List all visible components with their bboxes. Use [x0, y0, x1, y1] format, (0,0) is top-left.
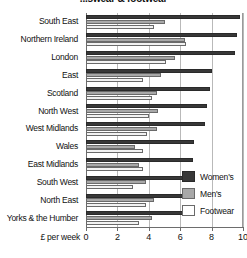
bar-women — [86, 15, 240, 19]
x-axis-line — [86, 227, 243, 228]
bar-men — [86, 56, 175, 60]
bar-footwear — [86, 203, 146, 207]
bar-men — [86, 198, 154, 202]
bar-women — [86, 51, 235, 55]
bar-group — [86, 84, 243, 102]
bar-footwear — [86, 221, 139, 225]
category-label: East — [0, 66, 82, 84]
bar-women — [86, 211, 183, 215]
bar-women — [86, 104, 207, 108]
legend-item: Footwear — [182, 202, 246, 219]
x-tick-label: 10 — [238, 232, 247, 243]
bar-men — [86, 73, 161, 77]
x-tick-label: 4 — [146, 232, 151, 243]
bar-women — [86, 194, 188, 198]
legend-label: Women's — [200, 172, 234, 182]
x-tick-label: 0 — [83, 232, 88, 243]
x-axis-title: £ per week — [0, 232, 80, 243]
bar-group — [86, 66, 243, 84]
bar-group — [86, 138, 243, 156]
x-tick-mark — [86, 227, 87, 231]
bar-group — [86, 120, 243, 138]
category-label: Northern Ireland — [0, 31, 82, 49]
bar-footwear — [86, 114, 149, 118]
x-tick-mark — [212, 227, 213, 231]
bar-footwear — [86, 78, 143, 82]
legend-label: Men's — [200, 189, 221, 199]
legend-swatch-women — [182, 171, 195, 182]
legend-item: Women's — [182, 168, 246, 185]
chart-legend: Women'sMen'sFootwear — [182, 168, 246, 219]
bar-men — [86, 127, 157, 131]
x-tick-label: 8 — [209, 232, 214, 243]
bar-group — [86, 31, 243, 49]
category-label: North West — [0, 102, 82, 120]
category-label: South West — [0, 173, 82, 191]
bar-group — [86, 13, 243, 31]
bar-group — [86, 102, 243, 120]
bar-women — [86, 69, 212, 73]
bar-men — [86, 20, 165, 24]
legend-item: Men's — [182, 185, 246, 202]
bar-women — [86, 87, 210, 91]
x-tick-mark — [243, 227, 244, 231]
category-label: West Midlands — [0, 120, 82, 138]
bar-men — [86, 216, 152, 220]
category-label: South East — [0, 13, 82, 31]
x-tick-label: 6 — [178, 232, 183, 243]
bar-men — [86, 109, 158, 113]
bar-chart: ...swear & footwear South EastNorthern I… — [0, 0, 247, 258]
bar-footwear — [86, 132, 147, 136]
category-label: Yorks & the Humber — [0, 209, 82, 227]
bar-men — [86, 145, 135, 149]
bar-footwear — [86, 42, 186, 46]
bar-women — [86, 140, 194, 144]
category-axis-labels: South EastNorthern IrelandLondonEastScot… — [0, 13, 82, 227]
bar-footwear — [86, 25, 154, 29]
bar-women — [86, 176, 190, 180]
legend-swatch-footwear — [182, 205, 195, 216]
category-label: Scotland — [0, 84, 82, 102]
bar-men — [86, 180, 146, 184]
bar-footwear — [86, 149, 143, 153]
legend-label: Footwear — [200, 206, 234, 216]
bar-footwear — [86, 60, 166, 64]
bar-footwear — [86, 185, 133, 189]
bar-men — [86, 38, 185, 42]
x-tick-label: 2 — [115, 232, 120, 243]
bar-footwear — [86, 96, 152, 100]
bar-group — [86, 49, 243, 67]
category-label: East Midlands — [0, 156, 82, 174]
category-label: London — [0, 49, 82, 67]
chart-title: ...swear & footwear — [0, 0, 247, 5]
bar-women — [86, 158, 193, 162]
bar-men — [86, 163, 139, 167]
legend-swatch-men — [182, 188, 195, 199]
x-tick-mark — [149, 227, 150, 231]
category-label: Wales — [0, 138, 82, 156]
bar-footwear — [86, 167, 143, 171]
bar-women — [86, 122, 205, 126]
x-tick-mark — [180, 227, 181, 231]
x-tick-mark — [117, 227, 118, 231]
bar-men — [86, 91, 157, 95]
category-label: North East — [0, 191, 82, 209]
bar-women — [86, 33, 237, 37]
